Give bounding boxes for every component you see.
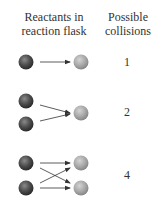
row-2-two-to-one bbox=[19, 94, 89, 132]
reactants-header-line2: reaction flask bbox=[20, 24, 88, 38]
collisions-header-line2: collisions bbox=[100, 24, 156, 38]
dark-molecule bbox=[19, 181, 34, 196]
collision-count-row-3: 4 bbox=[117, 168, 137, 183]
collision-arrow bbox=[40, 105, 70, 113]
dark-molecule bbox=[19, 117, 34, 132]
reactants-header-line1: Reactants in bbox=[22, 10, 86, 24]
collision-arrow bbox=[40, 114, 70, 121]
row-3-two-to-two bbox=[19, 156, 89, 196]
collision-count-row-2: 2 bbox=[117, 105, 137, 120]
dark-molecule bbox=[19, 156, 34, 171]
light-molecule bbox=[74, 156, 89, 171]
row-1-one-to-one bbox=[19, 55, 89, 70]
collision-count-row-1: 1 bbox=[117, 55, 137, 70]
dark-molecule bbox=[19, 94, 34, 109]
light-molecule bbox=[74, 106, 89, 121]
dark-molecule bbox=[19, 55, 34, 70]
collisions-header-line1: Possible bbox=[103, 10, 153, 24]
light-molecule bbox=[74, 181, 89, 196]
light-molecule bbox=[74, 55, 89, 70]
